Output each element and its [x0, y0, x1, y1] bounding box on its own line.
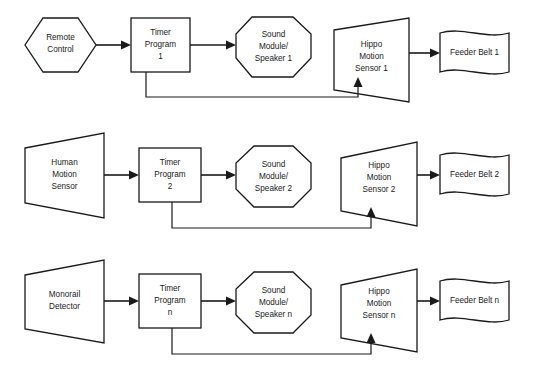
node-hippo-motion-sensor[interactable]: Hippo Motion Sensor 2	[341, 142, 417, 226]
connector-timer-to-sound	[201, 171, 236, 180]
node-human-motion-sensor[interactable]: Human Motion Sensor	[25, 133, 104, 218]
node-feeder-belt[interactable]: Feeder Belt n	[440, 279, 509, 322]
node-label-line1: Monorail	[49, 290, 81, 299]
arrow-head-icon	[430, 297, 440, 306]
node-sound-module[interactable]: Sound Module/ Speaker 1	[236, 17, 311, 77]
diagram-row-3: Monorail Detector Timer Program n Sound …	[25, 260, 509, 354]
node-hippo-motion-sensor[interactable]: Hippo Motion Sensor n	[341, 269, 417, 352]
node-hippo-motion-sensor[interactable]: Hippo Motion Sensor 1	[334, 18, 409, 102]
node-timer-program[interactable]: Timer Program 1	[131, 18, 190, 72]
arrow-head-icon	[226, 171, 236, 180]
connector-timer-to-sound	[190, 41, 236, 50]
node-sound-module[interactable]: Sound Module/ Speaker 2	[236, 146, 311, 207]
trapezoid-shape	[341, 142, 417, 226]
node-label-line2: Motion	[367, 299, 392, 308]
connector-input-to-timer	[104, 297, 139, 306]
arrow-head-icon	[430, 171, 440, 180]
node-label-line3: 1	[158, 52, 163, 61]
node-label-line2: Control	[47, 45, 74, 54]
node-label-line2: Module/	[259, 42, 289, 51]
arrow-head-icon	[129, 297, 139, 306]
node-label-line3: Speaker n	[255, 310, 293, 319]
node-label-line1: Sound	[262, 30, 286, 39]
node-remote-control[interactable]: Remote Control	[25, 18, 96, 72]
node-label-line1: Hippo	[368, 161, 390, 170]
diagram-row-2: Human Motion Sensor Timer Program 2 Soun…	[25, 133, 509, 228]
flow-diagram-canvas: Remote Control Timer Program 1 Sound Mod…	[0, 0, 541, 370]
node-label-line2: Motion	[367, 173, 392, 182]
node-label-line3: Sensor n	[363, 311, 396, 320]
node-monorail-detector[interactable]: Monorail Detector	[25, 260, 104, 343]
node-label-line2: Module/	[259, 298, 289, 307]
arrow-head-icon	[226, 297, 236, 306]
node-label-line3: Sensor 1	[355, 64, 388, 73]
node-timer-program[interactable]: Timer Program n	[139, 274, 201, 328]
node-label-line1: Sound	[262, 160, 286, 169]
node-label-line1: Timer	[160, 284, 181, 293]
node-feeder-belt[interactable]: Feeder Belt 1	[440, 31, 509, 74]
connector-sensor-to-belt	[409, 49, 440, 58]
node-feeder-belt[interactable]: Feeder Belt 2	[440, 153, 509, 196]
node-label-line1: Feeder Belt 1	[450, 48, 500, 57]
node-label-line1: Timer	[160, 158, 181, 167]
node-timer-program[interactable]: Timer Program 2	[139, 148, 201, 202]
node-label-line2: Program	[145, 40, 177, 49]
node-label-line1: Hippo	[361, 40, 383, 49]
node-label-line2: Motion	[359, 52, 384, 61]
diagram-row-1: Remote Control Timer Program 1 Sound Mod…	[25, 17, 509, 102]
arrow-head-icon	[226, 41, 236, 50]
connector-input-to-timer	[104, 171, 139, 180]
node-label-line2: Detector	[49, 302, 80, 311]
node-label-line1: Timer	[150, 28, 171, 37]
flow-diagram-svg: Remote Control Timer Program 1 Sound Mod…	[0, 0, 541, 370]
node-label-line1: Hippo	[368, 287, 390, 296]
node-label-line3: n	[168, 308, 173, 317]
node-label-line1: Feeder Belt n	[450, 296, 500, 305]
connector-sensor-to-belt	[417, 171, 440, 180]
node-label-line1: Feeder Belt 2	[450, 170, 500, 179]
node-label-line2: Program	[154, 296, 186, 305]
node-label-line3: Speaker 1	[255, 54, 293, 63]
node-label-line3: Sensor	[52, 182, 78, 191]
connector-input-to-timer	[96, 41, 131, 50]
node-label-line2: Motion	[52, 170, 77, 179]
arrow-head-icon	[129, 171, 139, 180]
node-label-line1: Sound	[262, 286, 286, 295]
node-label-line2: Program	[154, 170, 186, 179]
node-label-line1: Human	[51, 158, 78, 167]
arrow-head-icon	[121, 41, 131, 50]
connector-timer-to-sound	[201, 297, 236, 306]
node-label-line3: Sensor 2	[363, 185, 396, 194]
node-label-line1: Remote	[46, 33, 75, 42]
node-label-line2: Module/	[259, 172, 289, 181]
node-label-line3: Speaker 2	[255, 184, 293, 193]
node-sound-module[interactable]: Sound Module/ Speaker n	[236, 272, 311, 333]
node-label-line3: 2	[168, 182, 173, 191]
connector-sensor-to-belt	[417, 297, 440, 306]
arrow-head-icon	[430, 49, 440, 58]
